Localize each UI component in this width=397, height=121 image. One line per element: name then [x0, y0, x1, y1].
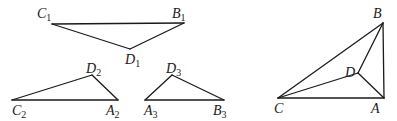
vertex-label-C1: C1 [37, 6, 51, 23]
edge-B-C [278, 23, 383, 98]
edge-D3-A3 [145, 75, 172, 100]
edge-B3-D3 [172, 75, 224, 100]
edge-D1-C1 [52, 24, 130, 49]
edge-D-B [358, 23, 383, 73]
edge-B1-D1 [130, 23, 184, 49]
diagram-svg: C1B1D1D2C2A2D3A3B3BDCA [0, 0, 397, 121]
vertex-label-B3: B3 [213, 103, 227, 120]
vertex-label-A2: A2 [105, 103, 120, 120]
quadrilateral-abcd: BDCA [274, 6, 384, 116]
edge-D2-C2 [12, 75, 92, 100]
edge-A-B [383, 23, 384, 98]
edge-D-A [358, 73, 384, 98]
vertex-label-B1: B1 [172, 6, 186, 23]
vertex-label-C2: C2 [12, 103, 26, 120]
vertex-label-D3: D3 [165, 61, 181, 78]
vertex-label-D2: D2 [85, 61, 101, 78]
vertex-label-A: A [370, 101, 380, 116]
vertex-label-D1: D1 [124, 52, 140, 69]
vertex-label-A3: A3 [143, 103, 158, 120]
edge-C1-B1 [52, 23, 184, 24]
vertex-label-C: C [274, 101, 284, 116]
edge-A2-D2 [92, 75, 118, 100]
geometry-diagram: C1B1D1D2C2A2D3A3B3BDCA [0, 0, 397, 121]
vertex-label-B: B [373, 6, 382, 21]
triangle-1: C1B1D1 [37, 6, 186, 69]
triangle-2: D2C2A2 [12, 61, 120, 120]
triangle-3: D3A3B3 [143, 61, 227, 120]
vertex-label-D: D [344, 65, 355, 80]
